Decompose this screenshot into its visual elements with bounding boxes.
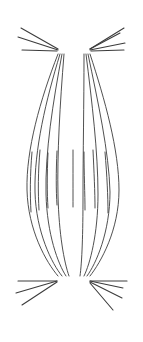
spindle-diagram-svg xyxy=(0,0,143,342)
spindle-figure xyxy=(0,0,143,342)
figure-background xyxy=(0,0,143,342)
